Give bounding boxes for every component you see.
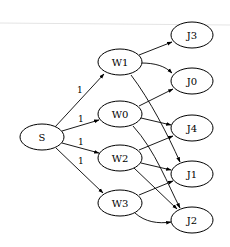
node-label-w2: W2 (112, 153, 129, 164)
edge-w0-j0 (139, 89, 173, 106)
edge-s-w3 (56, 148, 103, 193)
node-label-j0: J0 (186, 76, 197, 87)
node-label-s: S (39, 132, 46, 143)
node-w3[interactable]: W3 (98, 190, 142, 216)
node-j0[interactable]: J0 (171, 68, 213, 94)
node-j1[interactable]: J1 (171, 161, 213, 187)
node-w0[interactable]: W0 (98, 101, 142, 127)
node-w1[interactable]: W1 (98, 49, 142, 75)
node-label-w3: W3 (112, 198, 129, 209)
node-j3[interactable]: J3 (171, 22, 213, 48)
node-label-j1: J1 (186, 169, 197, 180)
node-label-j2: J2 (186, 215, 197, 226)
node-j4[interactable]: J4 (171, 115, 213, 141)
node-label-w0: W0 (112, 109, 129, 120)
edge-w3-j1 (139, 181, 173, 195)
edge-w1-j0 (141, 63, 172, 73)
edge-w2-j1 (141, 163, 171, 170)
graph-canvas: 1 1 1 1 S W1 (0, 0, 230, 247)
edge-w0-j4 (141, 118, 171, 125)
edge-label-s-w2: 1 (78, 137, 84, 147)
edge-w1-j3 (139, 42, 172, 55)
node-label-j3: J3 (186, 30, 197, 41)
edge-label-s-w1: 1 (77, 85, 83, 95)
node-j2[interactable]: J2 (171, 207, 213, 233)
node-label-w1: W1 (112, 57, 129, 68)
node-s[interactable]: S (20, 124, 64, 150)
edge-label-s-w3: 1 (78, 156, 84, 166)
edge-w3-j2 (135, 213, 171, 223)
edge-label-s-w0: 1 (78, 114, 84, 124)
node-w2[interactable]: W2 (98, 145, 142, 171)
edge-w2-j4 (139, 136, 173, 150)
node-label-j4: J4 (186, 123, 197, 134)
